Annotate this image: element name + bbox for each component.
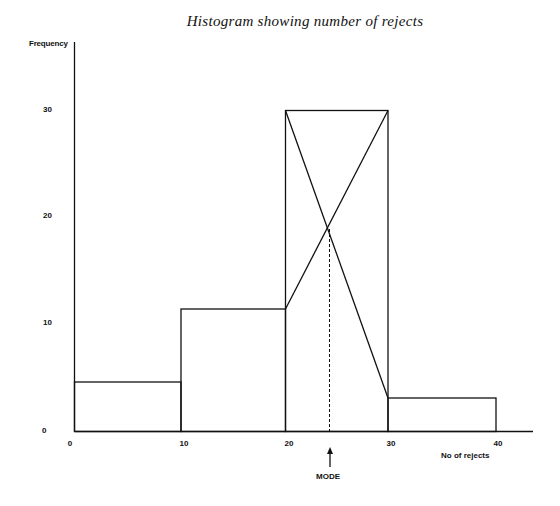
- mode-line-left: [286, 111, 389, 310]
- bar-0-10: [75, 382, 182, 432]
- mode-line-right: [286, 111, 389, 399]
- bar-20-30: [286, 111, 389, 432]
- bar-30-40: [388, 398, 496, 432]
- bar-10-20: [181, 309, 286, 432]
- mode-arrowhead-icon: [327, 447, 333, 454]
- histogram-plot: [0, 0, 560, 506]
